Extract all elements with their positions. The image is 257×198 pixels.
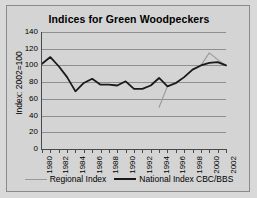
x-tick-label: 1980 [46, 156, 54, 174]
x-tick-mark [193, 150, 194, 153]
legend-label-national: National Index CBC/BBS [139, 174, 233, 184]
x-tick-label: 1994 [163, 156, 171, 174]
x-tick-mark [75, 150, 76, 153]
chart-frame: Indices for Green Woodpeckers Index: 200… [6, 5, 250, 192]
y-axis-line [41, 32, 42, 150]
y-axis-ticks: 140120100806040200 [10, 6, 38, 193]
x-tick-label: 1986 [96, 156, 104, 174]
x-tick-mark [209, 150, 210, 153]
x-tick-mark [226, 150, 227, 153]
chart-legend: Regional Index National Index CBC/BBS [7, 174, 251, 184]
x-tick-label: 2002 [230, 156, 238, 174]
legend-item-regional: Regional Index [25, 174, 107, 184]
x-tick-label: 1992 [146, 156, 154, 174]
x-tick-mark [101, 150, 102, 153]
legend-label-regional: Regional Index [50, 174, 107, 184]
x-tick-mark [117, 150, 118, 153]
series-line-national-index-cbc-bbs [42, 57, 226, 91]
x-tick-mark [50, 150, 51, 153]
x-tick-mark [67, 150, 68, 153]
x-tick-mark [159, 150, 160, 153]
x-tick-mark [126, 150, 127, 153]
x-tick-mark [109, 150, 110, 153]
legend-line-national-icon [114, 178, 136, 180]
x-tick-mark [151, 150, 152, 153]
y-tick-label: 0 [14, 145, 38, 153]
x-tick-mark [59, 150, 60, 153]
series-line-regional-index [159, 53, 226, 107]
x-tick-label: 1990 [129, 156, 137, 174]
x-tick-mark [184, 150, 185, 153]
x-tick-label: 1982 [62, 156, 70, 174]
x-tick-label: 1998 [196, 156, 204, 174]
x-tick-mark [42, 150, 43, 153]
x-tick-label: 1984 [79, 156, 87, 174]
x-tick-mark [218, 150, 219, 153]
x-tick-label: 1988 [112, 156, 120, 174]
legend-item-national: National Index CBC/BBS [114, 174, 233, 184]
x-tick-label: 1996 [179, 156, 187, 174]
x-tick-label: 2000 [213, 156, 221, 174]
chart-title: Indices for Green Woodpeckers [7, 13, 251, 25]
x-tick-mark [167, 150, 168, 153]
y-tick-label: 60 [14, 95, 38, 103]
y-tick-label: 20 [14, 128, 38, 136]
legend-line-regional-icon [25, 179, 47, 180]
series-lines [42, 32, 226, 149]
y-tick-label: 140 [14, 28, 38, 36]
x-tick-mark [201, 150, 202, 153]
chart-screenshot: Indices for Green Woodpeckers Index: 200… [0, 0, 257, 198]
x-tick-mark [142, 150, 143, 153]
x-tick-mark [92, 150, 93, 153]
y-tick-label: 120 [14, 45, 38, 53]
x-tick-mark [176, 150, 177, 153]
y-tick-label: 80 [14, 78, 38, 86]
x-tick-mark [84, 150, 85, 153]
x-tick-mark [134, 150, 135, 153]
y-tick-label: 100 [14, 61, 38, 69]
y-tick-label: 40 [14, 112, 38, 120]
plot-area [42, 32, 226, 149]
